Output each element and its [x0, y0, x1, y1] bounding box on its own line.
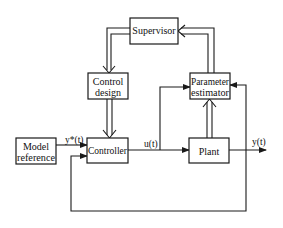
- supervisor-block: Supervisor: [130, 18, 178, 44]
- edge-control-design-to-controller: [103, 99, 116, 138]
- control-design-label-line1: Control: [93, 76, 124, 87]
- control-design-label-line2: design: [95, 87, 121, 98]
- model-reference-block: Model reference: [16, 138, 56, 164]
- model-reference-label-line1: Model: [23, 141, 49, 152]
- controller-label: Controller: [88, 145, 128, 156]
- signal-label-output: y(t): [252, 137, 266, 148]
- edge-plant-to-estimator: [203, 99, 216, 138]
- edge-y-to-estimator: [230, 85, 246, 150]
- plant-label: Plant: [199, 146, 220, 157]
- supervisor-label: Supervisor: [132, 25, 176, 36]
- parameter-estimator-label-line1: Parameter: [191, 76, 230, 87]
- control-design-block: Control design: [88, 73, 128, 99]
- edge-estimator-to-supervisor: [178, 25, 214, 73]
- signal-label-reference: y*(t): [65, 135, 83, 146]
- model-reference-label-line2: reference: [17, 152, 56, 163]
- edge-supervisor-to-control-design: [103, 28, 130, 73]
- signal-label-control: u(t): [144, 139, 158, 150]
- parameter-estimator-block: Parameter estimator: [190, 73, 230, 99]
- controller-block: Controller: [87, 138, 128, 163]
- edge-u-to-estimator: [160, 87, 190, 150]
- plant-block: Plant: [189, 138, 229, 163]
- parameter-estimator-label-line2: estimator: [191, 87, 230, 98]
- adaptive-control-diagram: Supervisor Control design Parameter esti…: [0, 0, 283, 228]
